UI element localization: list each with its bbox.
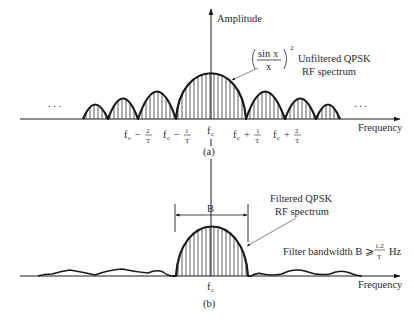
caption-a: (a) bbox=[203, 146, 215, 158]
unfiltered-annotation-line2: RF spectrum bbox=[302, 66, 356, 77]
amplitude-label: Amplitude bbox=[217, 13, 262, 24]
tick-fc-plus-1-over-T: f c + 1 T bbox=[233, 127, 261, 145]
tick-fc-minus-1-over-T: f c − 1 T bbox=[163, 127, 191, 145]
frequency-label-b: Frequency bbox=[358, 279, 403, 290]
tick-fc: f c bbox=[207, 125, 214, 138]
residual-sidelobes-right bbox=[251, 270, 362, 276]
svg-text:c: c bbox=[167, 134, 170, 142]
svg-text:T: T bbox=[377, 253, 382, 261]
svg-text:c: c bbox=[211, 286, 214, 294]
ellipsis-right: . . . bbox=[354, 98, 367, 109]
svg-text:2: 2 bbox=[290, 44, 294, 52]
svg-text:−: − bbox=[174, 129, 180, 140]
filtered-annotation-line2: RF spectrum bbox=[275, 206, 329, 217]
qpsk-spectrum-figure: Amplitude Frequency . . . . . . sin x x … bbox=[0, 0, 414, 320]
unfiltered-annotation-line1: Unfiltered QPSK bbox=[298, 53, 371, 64]
caption-b: (b) bbox=[203, 298, 216, 310]
panel-b-filtered-spectrum: Frequency B Filtered QPSK RF spectrum Fi… bbox=[20, 193, 403, 310]
svg-text:+: + bbox=[284, 129, 290, 140]
svg-text:+: + bbox=[244, 129, 250, 140]
svg-text:c: c bbox=[211, 130, 214, 138]
svg-text:1: 1 bbox=[185, 127, 189, 135]
svg-text:T: T bbox=[255, 137, 260, 145]
panel-a-unfiltered-spectrum: Amplitude Frequency . . . . . . sin x x … bbox=[20, 9, 403, 158]
svg-text:Filter bandwidth B ⩾: Filter bandwidth B ⩾ bbox=[283, 246, 374, 257]
frequency-label-a: Frequency bbox=[358, 122, 403, 133]
svg-text:1: 1 bbox=[256, 127, 260, 135]
svg-text:T: T bbox=[185, 137, 190, 145]
tick-fc-b: f c bbox=[207, 281, 214, 294]
svg-text:Hz: Hz bbox=[389, 246, 402, 257]
svg-text:T: T bbox=[146, 137, 151, 145]
filtered-annotation-line1: Filtered QPSK bbox=[270, 193, 333, 204]
filtered-lobe-fill bbox=[176, 227, 248, 277]
tick-fc-minus-2-over-T: f c − 2 T bbox=[124, 127, 152, 145]
svg-text:−: − bbox=[135, 129, 141, 140]
svg-text:c: c bbox=[237, 134, 240, 142]
tick-fc-plus-2-over-T: f c + 2 T bbox=[273, 127, 301, 145]
bandwidth-label: B bbox=[207, 203, 214, 214]
svg-text:x: x bbox=[266, 61, 272, 72]
svg-text:2: 2 bbox=[295, 127, 299, 135]
unfiltered-pointer-arrow bbox=[232, 68, 258, 80]
residual-sidelobes-left bbox=[38, 269, 173, 276]
svg-text:1.2: 1.2 bbox=[375, 242, 384, 250]
svg-text:c: c bbox=[128, 134, 131, 142]
svg-text:T: T bbox=[295, 137, 300, 145]
filter-bandwidth-formula: Filter bandwidth B ⩾ 1.2 T Hz bbox=[283, 242, 402, 261]
svg-text:sin x: sin x bbox=[258, 48, 279, 59]
svg-text:2: 2 bbox=[146, 127, 150, 135]
filtered-pointer-arrow bbox=[247, 218, 296, 246]
sinc-squared-formula: sin x x 2 bbox=[253, 44, 295, 72]
ellipsis-left: . . . bbox=[48, 98, 61, 109]
svg-text:c: c bbox=[277, 134, 280, 142]
